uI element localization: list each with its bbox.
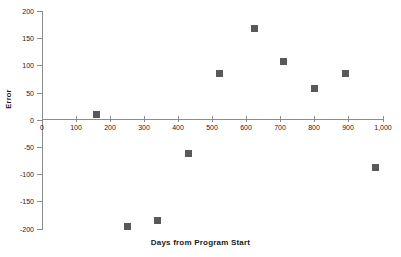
y-tick-mark [37,65,43,66]
data-point-marker [342,70,349,77]
data-point-marker [93,111,100,118]
x-tick-mark [246,116,247,122]
y-tick-label: 200 [8,8,34,15]
x-tick-mark [212,116,213,122]
y-tick-label: 150 [8,35,34,42]
data-point-marker [216,70,223,77]
data-point-marker [311,85,318,92]
data-point-marker [154,217,161,224]
y-tick-mark [37,147,43,148]
y-tick-label: -150 [8,198,34,205]
x-tick-mark [144,116,145,122]
data-point-marker [185,150,192,157]
data-point-marker [251,25,258,32]
y-tick-mark [37,11,43,12]
data-point-marker [372,164,379,171]
y-tick-label: -100 [8,171,34,178]
x-axis-title: Days from Program Start [0,238,401,247]
data-point-marker [280,58,287,65]
x-tick-mark [76,116,77,122]
y-tick-label: -50 [8,144,34,151]
y-tick-mark [37,174,43,175]
y-tick-label: -200 [8,226,34,233]
scatter-chart: 200150100500-50-100-150-200 010020030040… [0,0,401,257]
x-tick-mark [110,116,111,122]
x-tick-mark [383,116,384,122]
y-tick-mark [37,38,43,39]
x-tick-mark [348,116,349,122]
x-tick-mark [178,116,179,122]
y-tick-label: 100 [8,62,34,69]
y-tick-mark [37,229,43,230]
x-tick-mark [280,116,281,122]
x-tick-mark [314,116,315,122]
y-tick-mark [37,93,43,94]
data-point-marker [124,223,131,230]
x-tick-label: 900 [328,124,368,131]
x-tick-label: 1,000 [363,124,401,131]
y-axis-title: Error [5,79,13,119]
x-tick-mark [42,116,43,122]
y-tick-mark [37,201,43,202]
